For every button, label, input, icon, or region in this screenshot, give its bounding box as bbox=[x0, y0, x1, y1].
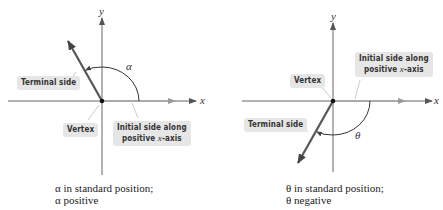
caption-line1: α in standard position; bbox=[55, 182, 153, 194]
initial-side-line2: positive x-axis bbox=[117, 133, 187, 144]
angle-arc bbox=[86, 67, 139, 101]
caption-line2: θ negative bbox=[286, 194, 384, 206]
caption-line2: α positive bbox=[55, 194, 153, 206]
caption-left: α in standard position; α positive bbox=[55, 182, 153, 206]
initial-side-prefix: positive bbox=[122, 134, 158, 143]
vertex-point bbox=[331, 99, 336, 104]
initial-side-line1: Initial side along bbox=[117, 123, 187, 133]
angle-arc bbox=[317, 101, 370, 135]
right-figure bbox=[242, 23, 432, 172]
terminal-side-label: Terminal side bbox=[17, 76, 80, 90]
vertex-point bbox=[100, 99, 105, 104]
initial-side-suffix: -axis bbox=[162, 134, 182, 143]
terminal-side-label: Terminal side bbox=[244, 118, 307, 132]
caption-right: θ in standard position; θ negative bbox=[286, 182, 384, 206]
left-figure bbox=[8, 18, 196, 175]
terminal-side bbox=[68, 41, 102, 101]
caption-line1: θ in standard position; bbox=[286, 182, 384, 194]
initial-side-prefix: positive bbox=[364, 65, 400, 74]
initial-side-line2: positive x-axis bbox=[359, 64, 429, 75]
terminal-side bbox=[298, 101, 333, 163]
angle-label: θ bbox=[355, 129, 360, 141]
y-axis-label: y bbox=[99, 5, 104, 17]
initial-side-label: Initial side along positive x-axis bbox=[113, 121, 191, 146]
angle-label: α bbox=[126, 60, 132, 72]
initial-side-label: Initial side along positive x-axis bbox=[355, 52, 433, 77]
initial-side-line1: Initial side along bbox=[359, 54, 429, 64]
x-axis-label: x bbox=[200, 94, 205, 106]
diagram-canvas bbox=[0, 0, 443, 210]
x-axis-label: x bbox=[434, 94, 439, 106]
y-axis-label: y bbox=[331, 10, 336, 22]
vertex-label: Vertex bbox=[290, 74, 325, 88]
initial-side-suffix: -axis bbox=[404, 65, 424, 74]
vertex-label: Vertex bbox=[63, 123, 98, 137]
